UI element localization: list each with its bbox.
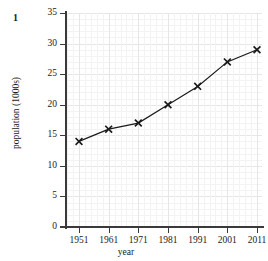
x-axis-line bbox=[60, 226, 264, 228]
gridline-vertical bbox=[180, 13, 181, 227]
y-axis-line bbox=[65, 11, 67, 229]
y-tick bbox=[60, 13, 65, 14]
y-tick-label: 5 bbox=[31, 190, 57, 200]
gridline-vertical bbox=[115, 13, 116, 227]
gridline-vertical bbox=[121, 13, 122, 227]
y-axis-label: population (1000s) bbox=[11, 53, 21, 173]
x-axis-label: year bbox=[86, 247, 166, 257]
gridline-vertical bbox=[221, 13, 222, 227]
gridline-vertical bbox=[132, 13, 133, 227]
gridline-vertical bbox=[233, 13, 234, 227]
gridline-vertical bbox=[109, 13, 110, 227]
plot-area bbox=[66, 13, 262, 227]
gridline-vertical bbox=[227, 13, 228, 227]
chart-title bbox=[47, 0, 227, 5]
y-tick-label: 25 bbox=[31, 68, 57, 78]
x-tick-label: 2011 bbox=[237, 235, 268, 245]
chart-figure: 1 05101520253035 19511961197119811991200… bbox=[0, 0, 268, 261]
gridline-vertical bbox=[245, 13, 246, 227]
y-tick-label: 35 bbox=[31, 7, 57, 17]
y-tick bbox=[60, 44, 65, 45]
y-tick-label: 10 bbox=[31, 160, 57, 170]
gridline-vertical bbox=[126, 13, 127, 227]
gridline-vertical bbox=[67, 13, 68, 227]
gridline-vertical bbox=[85, 13, 86, 227]
x-tick bbox=[79, 228, 80, 233]
gridline-vertical bbox=[251, 13, 252, 227]
gridline-vertical bbox=[168, 13, 169, 227]
gridline-vertical bbox=[138, 13, 139, 227]
gridline-vertical bbox=[239, 13, 240, 227]
y-tick bbox=[60, 105, 65, 106]
gridline-vertical bbox=[150, 13, 151, 227]
gridline-vertical bbox=[73, 13, 74, 227]
gridline-vertical bbox=[210, 13, 211, 227]
gridline-vertical bbox=[79, 13, 80, 227]
y-tick bbox=[60, 166, 65, 167]
y-tick bbox=[60, 74, 65, 75]
y-tick bbox=[60, 135, 65, 136]
gridline-vertical bbox=[156, 13, 157, 227]
gridline-vertical bbox=[257, 13, 258, 227]
x-tick bbox=[227, 228, 228, 233]
x-tick bbox=[109, 228, 110, 233]
x-tick bbox=[138, 228, 139, 233]
gridline-vertical bbox=[91, 13, 92, 227]
x-tick bbox=[198, 228, 199, 233]
y-tick-label: 15 bbox=[31, 129, 57, 139]
y-tick-label: 30 bbox=[31, 38, 57, 48]
gridline-vertical bbox=[162, 13, 163, 227]
gridline-vertical bbox=[204, 13, 205, 227]
gridline-vertical bbox=[97, 13, 98, 227]
y-tick-label: 0 bbox=[31, 221, 57, 231]
y-tick bbox=[60, 227, 65, 228]
y-tick bbox=[60, 196, 65, 197]
gridline-vertical bbox=[103, 13, 104, 227]
gridline-vertical bbox=[186, 13, 187, 227]
x-tick bbox=[257, 228, 258, 233]
gridline-vertical bbox=[215, 13, 216, 227]
x-tick bbox=[168, 228, 169, 233]
gridline-vertical bbox=[174, 13, 175, 227]
question-number: 1 bbox=[13, 12, 18, 23]
gridline-vertical bbox=[144, 13, 145, 227]
gridline-vertical bbox=[198, 13, 199, 227]
gridline-vertical bbox=[192, 13, 193, 227]
y-tick-label: 20 bbox=[31, 99, 57, 109]
